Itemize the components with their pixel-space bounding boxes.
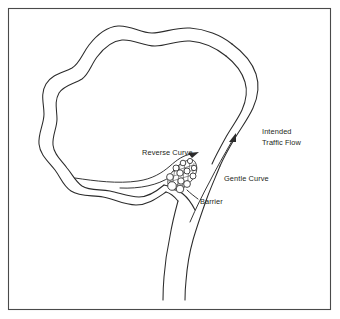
- barrier-stone: [184, 181, 191, 188]
- barrier-stone: [167, 174, 174, 181]
- diagram-border: [9, 9, 331, 310]
- barrier-island: [167, 158, 197, 192]
- road-diagram-canvas: Reverse Curve Gentle Curve Barrier Inten…: [0, 0, 340, 319]
- barrier-stone: [180, 160, 186, 166]
- barrier-stone: [191, 165, 196, 170]
- road-diagram-figure: Reverse Curve Gentle Curve Barrier Inten…: [0, 0, 340, 319]
- junction-left-edge: [166, 192, 178, 201]
- loop-road-outer-right: [220, 44, 258, 166]
- intended-traffic-flow-arrowhead: [229, 133, 236, 142]
- barrier-stone: [177, 170, 183, 176]
- barrier-stone: [187, 158, 192, 163]
- intended-traffic-flow-label-line1: Intended: [262, 127, 292, 136]
- stem-road-right-edge: [185, 166, 220, 300]
- gentle-curve-label: Gentle Curve: [224, 174, 269, 183]
- barrier-stone: [176, 185, 184, 193]
- intended-traffic-flow-label-line2: Traffic Flow: [262, 138, 302, 147]
- loop-road-inner-edge: [53, 40, 226, 197]
- barrier-label: Barrier: [200, 197, 223, 206]
- barrier-stone: [178, 178, 184, 184]
- barrier-leader-line: [187, 190, 198, 199]
- barrier-stone: [184, 168, 190, 174]
- reverse-curve-label: Reverse Curve: [142, 148, 193, 157]
- stem-road-left-edge: [163, 201, 178, 300]
- barrier-stone: [168, 182, 177, 191]
- loop-road-outer-edge: [39, 26, 232, 205]
- barrier-stone: [190, 173, 196, 179]
